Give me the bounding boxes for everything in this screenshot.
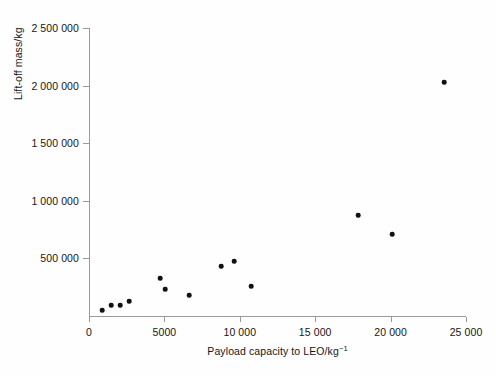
x-axis-title: Payload capacity to LEO/kg−1 [89,345,466,357]
y-tick-label: 2 000 000 [31,80,79,92]
data-point [249,284,254,289]
x-tick-label: 5000 [153,326,177,338]
y-tick-label: 500 000 [40,252,79,264]
x-axis-title-exponent: −1 [339,344,348,353]
scatter-chart-figure: 0500010 00015 00020 00025 000 500 0001 0… [0,0,496,376]
x-tick [391,317,392,322]
data-point [100,308,105,313]
x-tick-label: 10 000 [223,326,256,338]
data-point [118,303,123,308]
x-tick [240,317,241,322]
data-point [356,213,361,218]
x-tick [164,317,165,322]
x-tick-label: 25 000 [450,326,483,338]
data-point [187,293,192,298]
data-point [158,276,163,281]
y-tick-label: 1 000 000 [31,195,79,207]
x-tick [466,317,467,322]
x-axis-title-text: Payload capacity to LEO/kg [207,345,339,357]
x-tick-label: 0 [86,326,92,338]
y-tick-label: 1 500 000 [31,137,79,149]
data-point [232,259,237,264]
x-axis-line [89,316,466,317]
y-tick-label: 2 500 000 [31,22,79,34]
x-tick [89,317,90,322]
data-point [442,80,447,85]
y-axis-title: Lift-off mass/kg [12,0,24,100]
x-tick [315,317,316,322]
data-point [109,303,114,308]
data-point [127,299,132,304]
x-tick-label: 15 000 [299,326,332,338]
x-tick-label: 20 000 [374,326,407,338]
data-point [163,287,168,292]
data-point [219,264,224,269]
plot-area [89,28,466,316]
data-point [390,232,395,237]
